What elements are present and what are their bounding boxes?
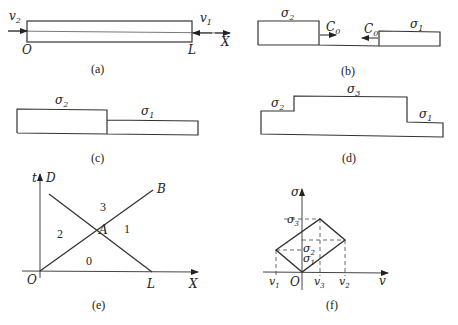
label-v3: v3 xyxy=(314,275,325,290)
label-v2: v2 xyxy=(339,275,350,290)
panel-a: v2 v1 O L X (a) xyxy=(8,9,230,76)
panel-e: t D B A O L X 0 1 2 3 (e) xyxy=(22,171,198,312)
label-sigma2: σ2 xyxy=(271,96,284,112)
label-v1: v1 xyxy=(269,275,280,290)
panel-d: σ2 σ3 σ1 (d) xyxy=(261,82,443,165)
label-sigma3: σ3 xyxy=(347,82,360,98)
region-1: 1 xyxy=(124,222,130,236)
panel-c: σ2 σ1 (c) xyxy=(17,93,198,165)
label-v-axis: v xyxy=(379,274,386,288)
label-sigma2: σ2 xyxy=(281,6,294,22)
caption-e: (e) xyxy=(92,298,105,312)
label-v1: v1 xyxy=(200,11,212,27)
caption-c: (c) xyxy=(91,151,104,165)
x-axis xyxy=(22,271,198,272)
caption-a: (a) xyxy=(91,62,104,76)
label-b: B xyxy=(156,182,166,196)
stress-profile-c xyxy=(17,109,198,135)
label-c0-left: C0 xyxy=(364,22,378,38)
label-origin: O xyxy=(22,43,32,57)
label-t: t xyxy=(32,171,37,185)
panel-f: σ σ3 σ2 σ1 v1 O v3 v2 v (f) xyxy=(263,185,388,312)
region-2: 2 xyxy=(57,227,63,241)
stress-wave-diagram: v2 v1 O L X (a) σ2 C0 C0 σ1 (b) σ2 σ1 (c… xyxy=(0,0,458,325)
caption-d: (d) xyxy=(342,151,356,165)
region-0: 0 xyxy=(86,254,92,268)
label-sigma1: σ1 xyxy=(419,107,432,123)
caption-f: (f) xyxy=(326,298,338,312)
label-end-l: L xyxy=(187,43,196,57)
label-d: D xyxy=(45,171,56,185)
caption-b: (b) xyxy=(341,64,355,78)
v-axis xyxy=(263,272,388,273)
label-origin: O xyxy=(27,273,37,287)
region-3: 3 xyxy=(100,200,106,214)
label-origin: O xyxy=(290,275,300,289)
label-c0-right: C0 xyxy=(326,20,340,36)
label-sigma-axis: σ xyxy=(291,185,300,199)
label-l: L xyxy=(146,277,155,291)
label-x: X xyxy=(188,277,198,291)
label-a: A xyxy=(98,223,108,237)
label-sigma1: σ1 xyxy=(410,17,423,33)
label-sigma3: σ3 xyxy=(287,213,300,228)
label-x-axis: X xyxy=(220,35,230,49)
label-sigma2: σ2 xyxy=(55,93,68,109)
label-v2: v2 xyxy=(9,9,21,25)
label-sigma1: σ1 xyxy=(141,104,154,120)
panel-b: σ2 C0 C0 σ1 (b) xyxy=(258,6,440,78)
stress-profile-d xyxy=(261,96,443,137)
